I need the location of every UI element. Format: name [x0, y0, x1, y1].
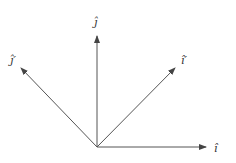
i-hat-label: î — [214, 142, 219, 155]
j-hat-label: ĵ — [92, 16, 98, 29]
i-hat-prime-label: î′ — [181, 54, 188, 67]
i-hat-prime-vector — [97, 68, 175, 147]
basis-vector-diagram: î ĵ î′ ĵ′ — [0, 0, 236, 163]
j-hat-prime-label: ĵ′ — [8, 54, 16, 67]
j-hat-prime-vector — [21, 68, 97, 147]
